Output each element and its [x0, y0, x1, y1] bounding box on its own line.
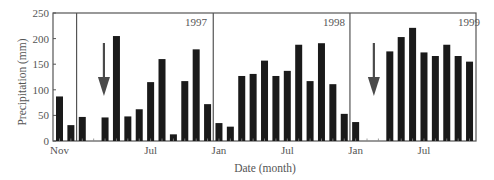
bar: Jul 1997: 115	[147, 82, 154, 141]
year-labels: 199719981999	[185, 16, 481, 28]
y-tick-label: 150	[33, 58, 50, 70]
down-arrow-icon	[368, 43, 380, 96]
bar: Nov 1999: 155	[466, 62, 473, 141]
x-tick-label: Nov	[50, 144, 69, 156]
bar: Nov 1997: 179	[193, 49, 200, 141]
bar: Mar 1998: 127	[238, 76, 245, 141]
bar: May 1997: 48	[124, 116, 131, 141]
y-axis-title: Precipitation (mm)	[16, 38, 29, 125]
bar: Apr 1999: 175	[386, 51, 393, 141]
y-tick-label: 50	[38, 109, 50, 121]
x-tick-label: Jul	[144, 144, 157, 156]
bar: May 1999: 203	[398, 37, 405, 141]
bars: Nov 1996: 87Dec 1996: 31Jan 1997: 47Mar …	[56, 28, 473, 141]
y-tick-label: 250	[33, 7, 50, 19]
precipitation-bar-chart: Nov 1996: 87Dec 1996: 31Jan 1997: 47Mar …	[0, 0, 494, 180]
bar: Dec 1997: 72	[204, 104, 211, 141]
x-tick-label: Jul	[281, 144, 294, 156]
bar: Sep 1998: 117	[307, 81, 314, 141]
x-axis-title: Date (month)	[234, 162, 296, 175]
y-tick-label: 0	[44, 135, 50, 147]
x-tick-label: Jan	[348, 144, 363, 156]
bar: Jul 1999: 173	[420, 52, 427, 141]
bar: Apr 1998: 131	[250, 74, 257, 141]
bar: Nov 1996: 87	[56, 96, 63, 141]
bar: Jan 1997: 47	[79, 117, 86, 141]
down-arrow-icon	[98, 43, 110, 96]
y-tick-label: 200	[33, 33, 50, 45]
bar: Dec 1998: 53	[341, 114, 348, 141]
x-tick-label: Jul	[418, 144, 431, 156]
bar: Aug 1997: 160	[159, 59, 166, 141]
bar: Jan 1999: 37	[352, 122, 359, 141]
bar: Mar 1997: 46	[102, 117, 109, 141]
year-label: 1998	[323, 16, 346, 28]
bar: Nov 1998: 111	[329, 84, 336, 141]
bar: Aug 1998: 188	[295, 45, 302, 141]
y-tick-label: 100	[33, 84, 50, 96]
bar: Jun 1997: 62	[136, 109, 143, 141]
bar: Oct 1997: 117	[181, 81, 188, 141]
bar: Sep 1999: 188	[443, 45, 450, 141]
bar: Jun 1999: 221	[409, 28, 416, 141]
bar: Oct 1999: 166	[455, 56, 462, 141]
bar: Jun 1998: 127	[272, 76, 279, 141]
bar: Apr 1997: 205	[113, 36, 120, 141]
bar: Oct 1998: 191	[318, 43, 325, 141]
year-label: 1997	[185, 16, 208, 28]
bar: Jan 1998: 35	[215, 123, 222, 141]
x-tick-label: Jan	[212, 144, 227, 156]
year-label: 1999	[458, 16, 481, 28]
bar: Jul 1998: 137	[284, 71, 291, 141]
bar: Aug 1999: 166	[432, 56, 439, 141]
bar: May 1998: 157	[261, 61, 268, 141]
